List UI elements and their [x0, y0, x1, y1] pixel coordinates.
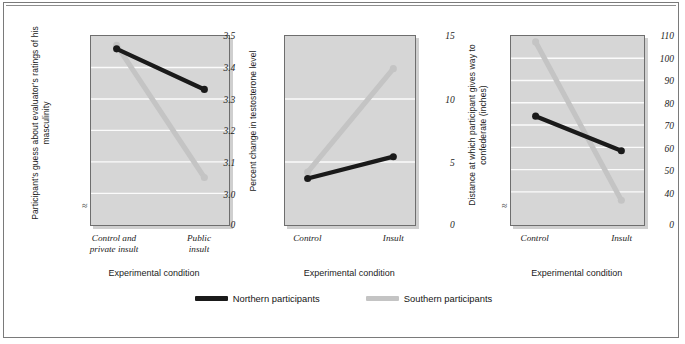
y-tick-label: 0 [167, 220, 235, 230]
legend-label-southern: Southern participants [404, 293, 493, 304]
chart-panel-3: Distance at which participant gives way … [455, 13, 674, 285]
legend-swatch-northern-icon [195, 296, 228, 301]
legend-item-northern: Northern participants [195, 293, 320, 304]
legend-item-southern: Southern participants [366, 293, 493, 304]
y-tick-label: 0 [412, 220, 455, 230]
panel-row: Participant's guess about evaluator's ra… [16, 13, 674, 285]
y-tick-label: 50 [625, 166, 674, 176]
y-axis-break-3: ≈ [502, 200, 508, 211]
y-tick-label: 5 [412, 158, 455, 168]
chart-legend: Northern participants Southern participa… [1, 293, 685, 304]
gridlines-3 [511, 58, 644, 192]
y-tick-label: 100 [625, 54, 674, 64]
legend-label-northern: Northern participants [233, 293, 320, 304]
y-tick-label: 90 [625, 76, 674, 86]
series-canvas-3 [511, 36, 644, 225]
x-axis-title-1: Experimental condition [68, 268, 240, 278]
y-tick-label: 40 [625, 189, 674, 199]
plot-area-2 [284, 35, 416, 226]
x-tick-label: Public insult [166, 233, 232, 255]
x-tick-label: Control [505, 233, 565, 244]
legend-swatch-southern-icon [366, 296, 399, 301]
x-axis-title-2: Experimental condition [263, 268, 435, 278]
y-axis-break-1: ≈ [82, 200, 88, 211]
y-tick-label: 3.0 [167, 190, 235, 200]
x-tick-label: Insult [363, 233, 423, 244]
y-tick-label: 3.4 [167, 63, 235, 73]
y-axis-title-3: Distance at which participant gives way … [467, 25, 501, 225]
y-tick-label: 0 [625, 220, 674, 230]
y-tick-label: 10 [412, 95, 455, 105]
x-tick-label: Control [277, 233, 337, 244]
y-tick-label: 70 [625, 121, 674, 131]
x-tick-label: Control and private insult [76, 233, 152, 255]
series-canvas-2 [285, 36, 415, 225]
y-axis-title-2: Percent change in testosterone level [248, 23, 282, 219]
y-tick-label: 3.3 [167, 95, 235, 105]
y-tick-label: 3.1 [167, 158, 235, 168]
chart-panel-1: Participant's guess about evaluator's ra… [16, 13, 235, 285]
y-tick-label: 15 [412, 31, 455, 41]
y-tick-label: 60 [625, 144, 674, 154]
chart-panel-2: Percent change in testosterone level [235, 13, 454, 285]
figure-frame: Participant's guess about evaluator's ra… [3, 2, 679, 338]
y-tick-label: 110 [625, 31, 674, 41]
y-tick-label: 80 [625, 99, 674, 109]
y-tick-label: 3.5 [167, 31, 235, 41]
x-tick-label: Insult [592, 233, 652, 244]
gridlines-2 [285, 99, 415, 162]
y-tick-label: 3.2 [167, 126, 235, 136]
y-axis-title-1: Participant's guess about evaluator's ra… [30, 20, 64, 226]
x-axis-title-3: Experimental condition [491, 268, 663, 278]
